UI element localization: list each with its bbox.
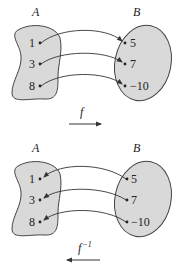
domain-value: 1 [29, 172, 35, 186]
point-dot [39, 221, 42, 224]
set-b-label: B [133, 5, 141, 19]
point-dot [124, 85, 127, 88]
set-b-ellipse [108, 20, 176, 106]
function-label: f−1 [78, 240, 92, 255]
point-dot [39, 85, 42, 88]
diagram-inverse: A B 1 3 8 5 7 −10 f−1 [12, 141, 176, 260]
point-dot [126, 178, 129, 181]
range-value: 5 [131, 172, 137, 186]
range-value: −10 [131, 215, 150, 229]
range-value: −10 [130, 79, 149, 93]
set-a-blob [12, 26, 61, 100]
set-b-ellipse [108, 156, 176, 242]
set-b-label: B [133, 141, 141, 155]
domain-value: 3 [29, 57, 35, 71]
point-dot [39, 199, 42, 202]
diagram-forward: A B 1 3 8 5 7 −10 f [12, 5, 176, 124]
point-dot [126, 221, 129, 224]
set-a-label: A [31, 141, 40, 155]
point-dot [124, 42, 127, 45]
domain-value: 8 [29, 79, 35, 93]
range-value: 7 [131, 193, 137, 207]
domain-value: 3 [29, 193, 35, 207]
range-value: 5 [130, 36, 136, 50]
range-value: 7 [130, 57, 136, 71]
point-dot [39, 42, 42, 45]
point-dot [39, 63, 42, 66]
domain-value: 8 [29, 215, 35, 229]
function-label: f [80, 105, 85, 119]
set-a-blob [12, 162, 61, 236]
point-dot [126, 199, 129, 202]
function-diagrams: A B 1 3 8 5 7 −10 f A B [0, 0, 176, 270]
function-superscript: −1 [82, 240, 91, 249]
point-dot [124, 63, 127, 66]
domain-value: 1 [29, 36, 35, 50]
set-a-label: A [31, 5, 40, 19]
point-dot [39, 178, 42, 181]
